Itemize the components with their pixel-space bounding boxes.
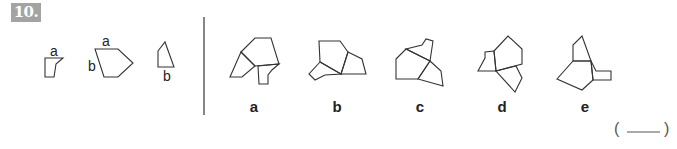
option-b[interactable]: b <box>309 41 366 115</box>
option-d[interactable]: d <box>478 36 522 115</box>
option-piece-outline <box>341 52 366 74</box>
option-a[interactable]: a <box>230 38 279 115</box>
piece-outline <box>158 42 174 67</box>
option-c[interactable]: c <box>396 39 443 115</box>
option-piece-outline <box>406 39 433 61</box>
option-piece-outline <box>557 61 593 90</box>
option-label: d <box>497 98 506 115</box>
option-label: b <box>332 98 341 115</box>
open-paren: ( <box>614 120 620 137</box>
given-piece-3: b <box>158 42 174 84</box>
option-piece-outline <box>478 51 496 71</box>
option-piece-outline <box>241 38 279 66</box>
answer-options: abcde <box>230 36 611 115</box>
puzzle-figure: aabb abcde ( ) <box>0 0 677 149</box>
edge-label: a <box>50 43 58 59</box>
option-piece-outline <box>496 66 522 92</box>
option-piece-outline <box>418 61 443 86</box>
answer-blank[interactable]: ( ) <box>614 120 669 137</box>
option-piece-outline <box>396 49 430 79</box>
option-e[interactable]: e <box>557 36 611 115</box>
option-label: c <box>416 98 424 115</box>
edge-label: b <box>163 68 171 84</box>
piece-outline <box>95 49 133 77</box>
option-piece-outline <box>309 62 341 80</box>
option-label: a <box>250 98 259 115</box>
option-piece-outline <box>494 36 522 71</box>
option-piece-outline <box>591 61 611 80</box>
given-piece-2: ab <box>88 33 133 77</box>
close-paren: ) <box>664 120 669 137</box>
given-piece-1: a <box>45 43 63 77</box>
edge-label: b <box>88 58 96 74</box>
option-piece-outline <box>573 36 591 61</box>
piece-outline <box>45 58 63 77</box>
option-piece-outline <box>230 52 255 77</box>
option-label: e <box>581 98 589 115</box>
given-pieces: aabb <box>45 33 174 84</box>
option-piece-outline <box>258 64 279 84</box>
option-piece-outline <box>319 41 348 74</box>
edge-label: a <box>102 33 110 49</box>
